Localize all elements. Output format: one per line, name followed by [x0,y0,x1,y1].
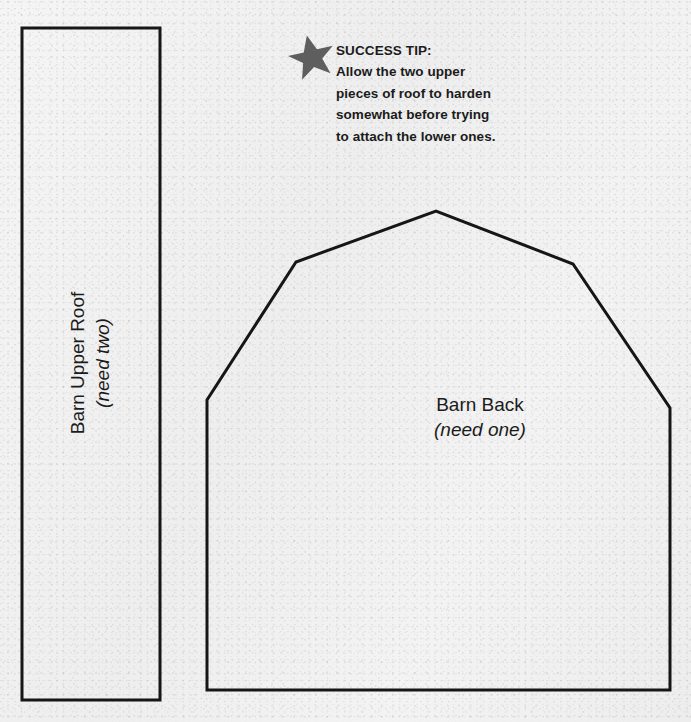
barn-back-name: Barn Back [390,392,570,417]
barn-upper-roof-name: Barn Upper Roof [65,213,90,513]
barn-back-label: Barn Back (need one) [390,392,570,442]
success-tip-title: SUCCESS TIP: [336,41,566,61]
success-tip-block: SUCCESS TIP: Allow the two upper pieces … [336,41,566,147]
success-tip-line-4: to attach the lower ones. [336,126,566,148]
barn-upper-roof-quantity: (need two) [90,213,115,513]
success-tip-line-2: pieces of roof to harden [336,83,566,105]
success-tip-line-3: somewhat before trying [336,104,566,126]
barn-back-quantity: (need one) [390,417,570,442]
barn-upper-roof-label: Barn Upper Roof (need two) [65,213,115,513]
barn-back-outline [207,211,670,690]
star-icon [284,30,338,81]
success-tip-line-1: Allow the two upper [336,61,566,83]
